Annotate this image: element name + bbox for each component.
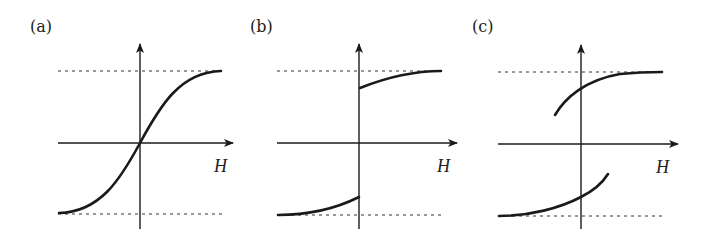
lower-branch-curve [499, 174, 608, 216]
h-axis-label: H [213, 156, 228, 176]
lower-branch-curve [278, 197, 359, 215]
panel-a: (a) H [30, 17, 233, 229]
upper-branch-curve [360, 71, 441, 88]
figure-canvas: (a) H (b) H (c) H [0, 0, 710, 241]
panel-c: (c) H [472, 17, 678, 229]
panel-b: (b) H [250, 17, 457, 229]
h-axis-label: H [436, 156, 451, 176]
panel-c-label: (c) [472, 17, 493, 36]
upper-branch-curve [555, 72, 662, 115]
panel-a-label: (a) [30, 17, 52, 36]
panel-b-label: (b) [250, 17, 273, 36]
h-axis-label: H [655, 157, 670, 177]
